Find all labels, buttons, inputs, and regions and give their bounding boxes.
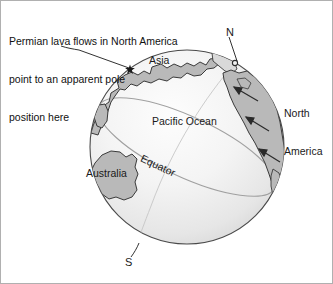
- label-north-america-line-1: North: [284, 107, 323, 120]
- pole-dot-icon: [232, 60, 237, 65]
- caption-block: Permian lava flows in North America poin…: [9, 9, 178, 150]
- label-pacific-ocean: Pacific Ocean: [152, 115, 217, 128]
- label-australia: Australia: [86, 167, 127, 180]
- label-south-pole: S: [125, 256, 132, 269]
- label-north-pole: N: [226, 26, 234, 39]
- north-pole-leader-line: [229, 37, 237, 61]
- label-north-america-line-2: America: [284, 145, 323, 158]
- south-pole-leader-line: [131, 243, 139, 257]
- figure-container: Permian lava flows in North America poin…: [0, 0, 333, 284]
- caption-line-1: Permian lava flows in North America: [9, 35, 178, 48]
- label-asia: Asia: [149, 54, 169, 67]
- caption-line-2: point to an apparent pole: [9, 73, 178, 86]
- label-north-america: North America: [284, 81, 323, 183]
